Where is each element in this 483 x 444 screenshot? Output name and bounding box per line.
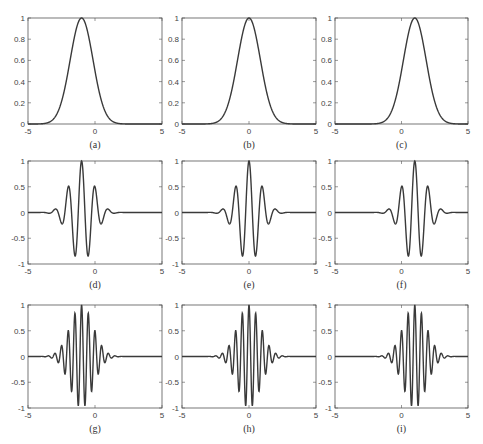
x-tick-label: 5 [160,411,165,420]
data-line [335,305,468,406]
x-tick-label: 0 [399,267,404,276]
x-tick-label: 0 [399,127,404,136]
y-tick-label: 1 [21,301,26,310]
x-tick-label: -5 [24,267,32,276]
data-line [28,305,162,406]
data-line [28,18,162,124]
x-tick-label: 0 [93,127,98,136]
subplot-c: 00.20.40.60.81-505(c) [321,14,471,151]
y-tick-label: -0.5 [11,234,25,243]
x-tick-label: -5 [178,411,186,420]
y-tick-label: -0.5 [318,378,332,387]
y-tick-label: 0.6 [321,56,333,65]
figure-grid: 00.20.40.60.81-505(a) 00.20.40.60.81-505… [0,0,483,444]
data-line [182,305,316,406]
data-line [28,161,162,256]
y-tick-label: 0.2 [321,99,333,108]
y-tick-label: -0.5 [11,378,25,387]
y-tick-label: 0.2 [168,99,180,108]
y-tick-label: 0 [175,209,180,218]
x-tick-label: 5 [466,267,471,276]
subplot-caption: (h) [243,423,255,435]
x-tick-label: 5 [160,127,165,136]
y-tick-label: 1 [328,14,333,23]
y-tick-label: 0 [328,209,333,218]
x-tick-label: 0 [247,411,252,420]
x-tick-label: 0 [247,267,252,276]
y-tick-label: 0.4 [14,78,26,87]
x-tick-label: 5 [314,127,319,136]
y-tick-label: 0.2 [14,99,26,108]
x-tick-label: -5 [331,411,339,420]
y-tick-label: -0.5 [165,234,179,243]
subplot-caption: (f) [397,279,407,291]
x-tick-label: -5 [331,127,339,136]
x-tick-label: 0 [247,127,252,136]
y-tick-label: -0.5 [165,378,179,387]
subplot-caption: (e) [243,279,254,291]
x-tick-label: -5 [24,127,32,136]
y-tick-label: 0.5 [168,327,180,336]
x-tick-label: 0 [93,411,98,420]
x-tick-label: -5 [178,267,186,276]
subplot-caption: (a) [89,139,100,151]
y-tick-label: 0.6 [14,56,26,65]
subplot-b: 00.20.40.60.81-505(b) [168,14,319,151]
subplot-caption: (i) [397,423,406,435]
y-tick-label: 1 [21,14,26,23]
y-tick-label: 0.4 [168,78,180,87]
x-tick-label: 5 [160,267,165,276]
y-tick-label: 1 [328,157,333,166]
x-tick-label: 5 [466,411,471,420]
data-line [335,161,468,256]
subplot-caption: (b) [243,139,255,151]
y-tick-label: 1 [175,301,180,310]
x-tick-label: -5 [178,127,186,136]
y-tick-label: 0.8 [14,35,26,44]
subplot-i: -1-0.500.51-505(i) [318,301,471,435]
y-tick-label: 0.4 [321,78,333,87]
subplot-caption: (c) [396,139,407,151]
y-tick-label: 0 [175,353,180,362]
y-tick-label: 0 [21,209,26,218]
subplot-f: -1-0.500.51-505(f) [318,157,471,291]
y-tick-label: 1 [175,157,180,166]
y-tick-label: 1 [21,157,26,166]
data-line [182,161,316,256]
y-tick-label: 0.6 [168,56,180,65]
subplot-a: 00.20.40.60.81-505(a) [14,14,165,151]
subplot-d: -1-0.500.51-505(d) [11,157,165,291]
data-line [182,18,316,124]
x-tick-label: 5 [466,127,471,136]
y-tick-label: 0.8 [168,35,180,44]
data-line [335,18,468,124]
y-tick-label: 1 [328,301,333,310]
subplot-caption: (d) [89,279,101,291]
y-tick-label: 0 [21,353,26,362]
subplot-g: -1-0.500.51-505(g) [11,301,165,435]
y-tick-label: 1 [175,14,180,23]
y-tick-label: 0.5 [321,183,333,192]
y-tick-label: 0.5 [321,327,333,336]
y-tick-label: -0.5 [318,234,332,243]
y-tick-label: 0.5 [14,183,26,192]
x-tick-label: -5 [24,411,32,420]
axes-box [182,18,316,124]
x-tick-label: 5 [314,411,319,420]
subplot-h: -1-0.500.51-505(h) [165,301,319,435]
y-tick-label: 0.8 [321,35,333,44]
x-tick-label: 5 [314,267,319,276]
x-tick-label: 0 [399,411,404,420]
y-tick-label: 0.5 [168,183,180,192]
y-tick-label: 0 [328,353,333,362]
x-tick-label: 0 [93,267,98,276]
x-tick-label: -5 [331,267,339,276]
subplot-e: -1-0.500.51-505(e) [165,157,319,291]
y-tick-label: 0.5 [14,327,26,336]
subplot-caption: (g) [89,423,101,435]
